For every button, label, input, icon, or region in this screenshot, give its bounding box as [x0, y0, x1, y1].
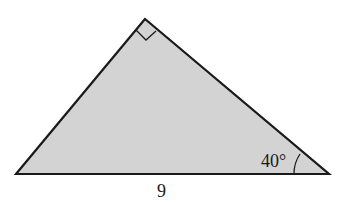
triangle-diagram: 40° 9: [0, 0, 338, 204]
angle-label: 40°: [261, 151, 286, 171]
base-length-label: 9: [157, 181, 166, 201]
